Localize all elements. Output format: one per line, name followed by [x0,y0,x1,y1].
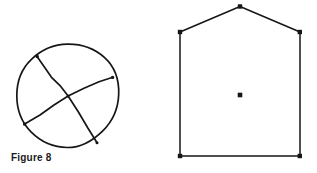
vertex-marker-bottom-left [178,154,182,158]
house-pentagon-group [178,4,302,158]
figure-8-drawing [0,0,317,173]
center-dot [238,93,243,98]
chord-upper-left-to-lower-right [37,56,97,143]
circle-with-two-chords-group [17,44,119,147]
chord-intersection-dot [67,95,70,98]
vertex-marker-right-shoulder [298,30,302,34]
figure-canvas: Figure 8 [0,0,317,173]
chord-endpoint-dot-upper-right [111,76,114,79]
house-pentagon-outline [180,7,300,157]
chord-lower-left-to-upper-right [24,77,113,124]
vertex-marker-apex [238,4,242,8]
vertex-marker-bottom-right [298,154,302,158]
chord-endpoint-dot-upper-left [36,55,39,58]
vertex-marker-left-shoulder [178,30,182,34]
chord-endpoint-dot-lower-right [96,141,99,144]
chord-endpoint-dot-lower-left [23,123,26,126]
figure-caption: Figure 8 [11,152,52,164]
